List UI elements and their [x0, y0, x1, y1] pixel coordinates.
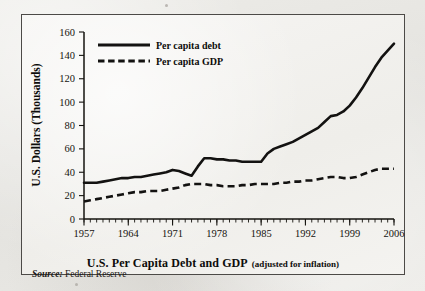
legend-label-per-capita-gdp: Per capita GDP: [156, 56, 223, 67]
y-axis-tick-labels: 020406080100120140160: [59, 27, 75, 225]
x-tick-label: 1971: [162, 228, 183, 239]
paper-speck: [75, 283, 78, 286]
y-tick-label: 0: [70, 214, 75, 225]
y-tick-label: 100: [59, 97, 75, 108]
series-line-per-capita-debt: [84, 44, 394, 183]
y-tick-label: 60: [65, 143, 76, 154]
chart-legend: Per capita debt Per capita GDP: [98, 40, 223, 67]
x-tick-label: 2006: [384, 228, 405, 239]
y-tick-label: 20: [65, 190, 76, 201]
y-tick-label: 80: [65, 120, 76, 131]
y-tick-label: 40: [65, 167, 76, 178]
x-tick-label: 1985: [251, 228, 272, 239]
x-axis-tick-labels: 19571964197119781985199219992006: [74, 228, 405, 239]
x-tick-label: 1964: [118, 228, 140, 239]
source-label: Source:: [32, 269, 63, 279]
y-tick-label: 160: [59, 27, 75, 38]
paper-speck: [165, 4, 168, 7]
x-tick-label: 1999: [339, 228, 360, 239]
y-axis-title: U.S. Dollars (Thousands): [30, 63, 43, 187]
y-tick-label: 120: [59, 73, 75, 84]
x-tick-label: 1992: [295, 228, 316, 239]
y-tick-label: 140: [59, 50, 75, 61]
series-line-per-capita-gdp: [84, 169, 394, 202]
chart-plot-area: 020406080100120140160 195719641971197819…: [22, 15, 406, 276]
source-row: Source: Federal Reserve: [32, 269, 126, 279]
legend-label-per-capita-debt: Per capita debt: [156, 40, 221, 51]
x-tick-label: 1978: [206, 228, 227, 239]
chart-caption-main: U.S. Per Capita Debt and GDP: [87, 256, 248, 270]
x-tick-label: 1957: [74, 228, 95, 239]
chart-svg: 020406080100120140160 195719641971197819…: [22, 15, 406, 276]
x-axis-major-ticks: [84, 219, 394, 226]
chart-caption-note: (adjusted for inflation): [252, 259, 339, 269]
figure-frame: 020406080100120140160 195719641971197819…: [21, 14, 405, 275]
source-value: Federal Reserve: [65, 269, 126, 279]
